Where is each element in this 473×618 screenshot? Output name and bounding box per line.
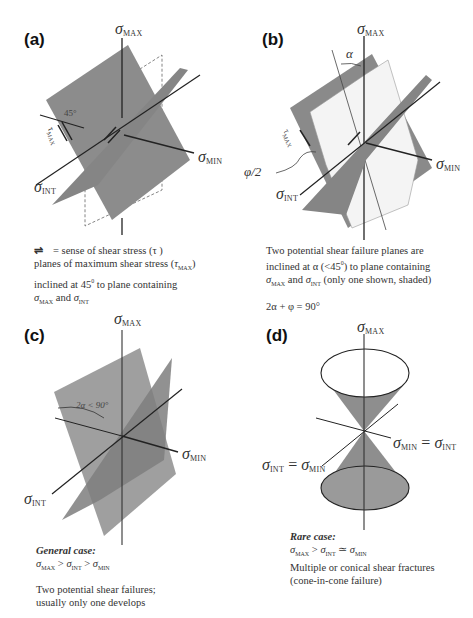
sigma-min-eq-int-label: σMIN = σINT: [393, 434, 457, 452]
panel-a: (a) 45° σMAX σMIN σINT τMAX ⇌= sense of …: [0, 0, 236, 300]
angle-45-label: 45°: [64, 108, 77, 118]
sigma-int-eq-min-label: σINT = σMIN: [262, 456, 326, 474]
alpha-label: α: [346, 46, 353, 62]
sigma-int-label: σINT: [276, 185, 298, 203]
sigma-int-label: σINT: [34, 178, 56, 196]
panel-b: (b) σMAX σMIN σINT α φ/2 τMAX Two potent…: [236, 0, 473, 300]
sigma-min-label: σMIN: [182, 445, 206, 463]
phi-half-label: φ/2: [244, 164, 261, 180]
sigma-max-label: σMAX: [357, 318, 384, 336]
panel-c-caption: General case: σMAX > σINT > σMIN Two pot…: [36, 544, 156, 609]
sigma-int-label: σINT: [24, 490, 46, 508]
sigma-max-label: σMAX: [115, 20, 142, 38]
panel-c: (c) 2α < 90° σMAX σMIN σINT General case…: [0, 300, 236, 618]
panel-d: (d) σMAX σMIN = σINT σINT = σMIN Rare ca…: [236, 300, 473, 618]
sigma-max-label: σMAX: [357, 20, 384, 38]
sigma-max-label: σMAX: [114, 310, 141, 328]
sigma-min-label: σMIN: [198, 148, 222, 166]
panel-a-caption: ⇌= sense of shear stress (τ ) planes of …: [34, 244, 196, 309]
panel-d-caption: Rare case: σMAX > σINT ≃ σMIN Multiple o…: [290, 530, 435, 587]
two-alpha-label: 2α < 90°: [76, 400, 108, 410]
sigma-min-label: σMIN: [436, 155, 460, 173]
shear-sense-icon: ⇌: [34, 245, 43, 256]
